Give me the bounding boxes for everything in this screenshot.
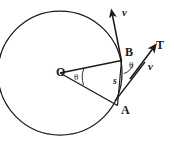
- central-angle-arc: [82, 68, 84, 85]
- label-point-b: B: [125, 46, 133, 58]
- label-angle-center: θ: [74, 73, 78, 82]
- velocity-vector-top: [112, 13, 122, 61]
- radius-to-b: [60, 61, 122, 74]
- label-point-a: A: [121, 104, 130, 116]
- label-velocity-top: v: [122, 7, 127, 18]
- label-angle-at-b: θ: [129, 61, 133, 70]
- label-velocity-right: v: [148, 61, 153, 72]
- radius-to-a: [60, 73, 118, 106]
- label-tension-t: T: [156, 39, 164, 51]
- physics-diagram: O B A s T v v θ θ: [0, 0, 174, 143]
- label-center-o: O: [56, 66, 65, 78]
- label-chord-s: s: [113, 76, 117, 86]
